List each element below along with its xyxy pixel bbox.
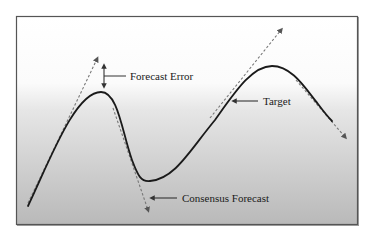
consensus-forecast-label: Consensus Forecast	[182, 192, 269, 204]
forecast-error-label: Forecast Error	[130, 70, 194, 82]
target-label: Target	[263, 95, 291, 107]
forecast-diagram: Forecast Error Target Consensus Forecast	[0, 0, 372, 237]
